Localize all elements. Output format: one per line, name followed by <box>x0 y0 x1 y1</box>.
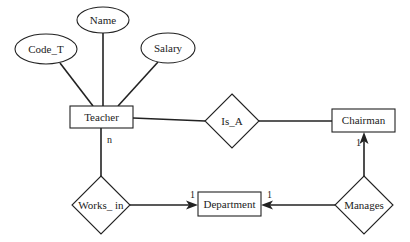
entity-teacher: Teacher <box>70 106 133 128</box>
relationship-manages: Manages <box>335 176 393 234</box>
relationship-works-in: Works_ in <box>72 176 130 234</box>
attribute-salary: Salary <box>141 33 195 63</box>
attribute-name: Name <box>77 7 129 33</box>
cardinality-manages-chairman: 1 <box>356 137 361 148</box>
cardinality-works-in-department: 1 <box>190 189 195 200</box>
er-diagram-canvas: Code_T Name Salary Teacher Chairman Depa… <box>0 0 410 242</box>
edge-code-t-teacher <box>60 63 93 106</box>
entity-teacher-label: Teacher <box>84 111 119 123</box>
entity-department: Department <box>198 192 261 216</box>
attribute-code-t-label: Code_T <box>28 43 64 55</box>
relationship-works-in-label: Works_ in <box>78 199 124 211</box>
relationship-is-a-label: Is_A <box>221 115 242 127</box>
cardinality-manages-department: 1 <box>267 189 272 200</box>
edge-teacher-is-a <box>133 118 205 121</box>
entity-chairman-label: Chairman <box>342 114 386 126</box>
attribute-salary-label: Salary <box>154 42 183 54</box>
cardinality-teacher-works-in: n <box>107 134 112 145</box>
edge-salary-teacher <box>118 62 158 106</box>
entity-department-label: Department <box>204 198 256 210</box>
attribute-code-t: Code_T <box>15 34 77 64</box>
relationship-is-a: Is_A <box>205 94 259 148</box>
entity-chairman: Chairman <box>332 109 395 132</box>
attribute-name-label: Name <box>90 14 116 26</box>
relationship-manages-label: Manages <box>344 199 384 211</box>
